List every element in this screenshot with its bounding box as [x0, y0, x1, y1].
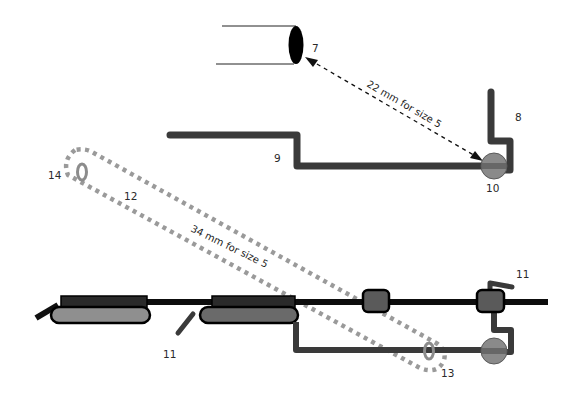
label-12: 12 — [124, 190, 137, 202]
wire-lower — [296, 322, 485, 350]
label-11-bottom: 11 — [163, 348, 176, 360]
tube-bracket-middle — [363, 290, 389, 312]
measure-arrow-22mm — [305, 57, 483, 161]
tube-bottom — [481, 338, 507, 364]
cylinder-7 — [216, 26, 304, 64]
tube-10 — [481, 153, 507, 179]
label-11-right: 11 — [516, 268, 529, 280]
bracket-left — [36, 296, 150, 323]
appliance-diagram: 7 22 mm for size 5 9 8 10 14 12 34 mm fo… — [0, 0, 583, 406]
label-9: 9 — [274, 152, 281, 164]
label-10: 10 — [486, 182, 499, 194]
label-7: 7 — [312, 42, 319, 54]
measure-text-22mm: 22 mm for size 5 — [365, 78, 444, 130]
label-13: 13 — [441, 367, 454, 379]
ring-14 — [78, 164, 87, 180]
wire-9 — [170, 135, 485, 166]
label-14: 14 — [48, 169, 62, 181]
label-8: 8 — [515, 111, 522, 123]
